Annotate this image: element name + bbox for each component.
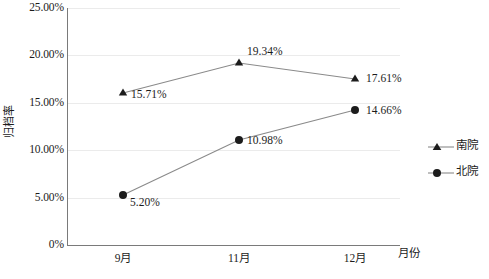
y-tick-label: 5.00% <box>35 192 64 204</box>
line-chart: 25.00% 20.00% 15.00% 10.00% 5.00% 0% 归档率… <box>0 0 489 279</box>
y-axis-line <box>67 8 68 246</box>
data-label-beiyuan-2: 10.98% <box>247 134 282 146</box>
circle-marker-icon <box>428 165 454 177</box>
legend-item-nanyuan[interactable]: 南院 <box>428 132 488 158</box>
gridline-10 <box>68 150 400 151</box>
legend-item-beiyuan[interactable]: 北院 <box>428 158 488 184</box>
triangle-marker <box>235 59 243 66</box>
y-tick-label: 20.00% <box>29 49 64 61</box>
circle-marker <box>235 136 243 144</box>
y-tick-label: 25.00% <box>29 2 64 14</box>
y-tick-label: 10.00% <box>29 144 64 156</box>
circle-marker <box>351 106 359 114</box>
gridline-25 <box>68 8 400 9</box>
y-tick-label: 0% <box>49 239 64 251</box>
data-label-nanyuan-3: 17.61% <box>366 72 401 84</box>
series-line-beiyuan <box>123 110 355 195</box>
gridline-15 <box>68 103 400 104</box>
gridline-5 <box>68 198 400 199</box>
x-axis-title: 月份 <box>398 247 420 259</box>
y-axis-title: 归档率 <box>4 99 15 145</box>
series-overlay <box>0 0 489 279</box>
legend: 南院 北院 <box>428 132 488 184</box>
x-tick-9yue: 9月 <box>115 252 132 264</box>
data-label-nanyuan-2: 19.34% <box>247 45 282 57</box>
legend-label: 南院 <box>454 139 478 151</box>
data-label-beiyuan-3: 14.66% <box>366 104 401 116</box>
y-tick-label: 15.00% <box>29 97 64 109</box>
triangle-marker <box>351 75 359 82</box>
gridline-20 <box>68 55 400 56</box>
triangle-marker <box>119 89 127 96</box>
x-axis-line <box>68 245 400 246</box>
triangle-marker-icon <box>428 139 454 151</box>
x-tick-11yue: 11月 <box>228 252 250 264</box>
data-label-beiyuan-1: 5.20% <box>130 196 160 208</box>
legend-label: 北院 <box>454 165 478 177</box>
data-label-nanyuan-1: 15.71% <box>131 88 166 100</box>
x-tick-12yue: 12月 <box>344 252 367 264</box>
